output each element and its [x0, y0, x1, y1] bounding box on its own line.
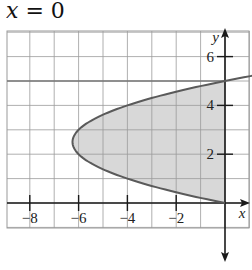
x-tick-label: −2 — [168, 210, 184, 226]
parabola-region-plot: −8−6−4−2246xy — [0, 0, 252, 270]
y-tick-label: 4 — [207, 97, 215, 113]
y-tick-label: 6 — [207, 49, 215, 65]
x-tick-label: −4 — [119, 210, 135, 226]
x-axis-label: x — [238, 205, 246, 221]
y-tick-label: 2 — [207, 146, 215, 162]
x-tick-label: −8 — [22, 210, 38, 226]
y-axis-label: y — [210, 29, 219, 45]
x-tick-label: −6 — [71, 210, 87, 226]
